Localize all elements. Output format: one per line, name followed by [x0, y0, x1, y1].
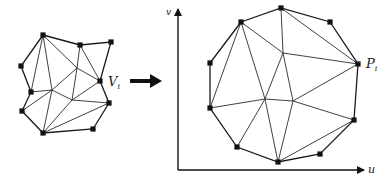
- mesh-edge: [265, 53, 283, 99]
- mesh-edge: [237, 99, 265, 147]
- boundary-vertex-marker: [278, 5, 283, 10]
- boundary-vertex-marker: [238, 19, 243, 24]
- mesh-edge: [283, 53, 293, 101]
- mapping-arrow-icon: [130, 74, 162, 88]
- original-3d-mesh: Vi: [18, 32, 120, 135]
- mesh-edge: [293, 101, 354, 120]
- mesh-edge: [281, 8, 358, 64]
- mesh-edge: [241, 22, 283, 53]
- mesh-edge: [265, 99, 278, 162]
- mesh-edge: [293, 64, 358, 101]
- mesh-edge: [52, 90, 72, 100]
- mesh-edge: [210, 22, 241, 108]
- boundary-vertex-marker: [40, 32, 45, 37]
- boundary-vertex-marker: [351, 117, 356, 122]
- mesh-edge: [72, 81, 100, 100]
- mesh-edge: [72, 100, 109, 103]
- mesh-edge: [43, 35, 52, 90]
- boundary-vertex-marker: [106, 100, 111, 105]
- mesh-edge: [278, 101, 293, 162]
- boundary-vertex-marker: [40, 130, 45, 135]
- boundary-vertex-marker: [355, 61, 360, 66]
- mesh-edge: [265, 99, 293, 101]
- mesh-parameterization-diagram: Vi u v Pi: [0, 0, 391, 180]
- mesh-edge: [241, 22, 265, 99]
- boundary-vertex-marker: [207, 60, 212, 65]
- v-axis-label: v: [166, 7, 171, 17]
- mesh-edge: [43, 100, 72, 133]
- boundary-vertex-marker: [97, 78, 102, 83]
- vertex-label-pi: Pi: [365, 56, 378, 73]
- uv-axes: u v: [166, 7, 375, 176]
- parameterized-2d-mesh: Pi: [207, 5, 377, 164]
- boundary-vertex-marker: [90, 126, 95, 131]
- right-mesh-boundary-vertices: [207, 5, 360, 164]
- left-mesh-boundary: [21, 35, 111, 133]
- mesh-edge: [72, 68, 77, 100]
- mesh-edge: [43, 90, 52, 133]
- vertex-label-vi: Vi: [108, 74, 120, 91]
- boundary-vertex-marker: [28, 89, 33, 94]
- mesh-edge: [210, 99, 265, 108]
- boundary-vertex-marker: [108, 39, 113, 44]
- mesh-edge: [278, 120, 354, 162]
- left-mesh-interior-edges: [22, 35, 109, 133]
- mesh-edge: [281, 8, 283, 53]
- mesh-edge: [52, 68, 77, 90]
- mesh-edge: [77, 45, 80, 68]
- boundary-vertex-marker: [327, 19, 332, 24]
- boundary-vertex-marker: [234, 144, 239, 149]
- boundary-vertex-marker: [207, 105, 212, 110]
- boundary-vertex-marker: [275, 159, 280, 164]
- u-axis-label: u: [368, 163, 375, 176]
- boundary-vertex-marker: [19, 108, 24, 113]
- mesh-edge: [283, 53, 358, 64]
- boundary-vertex-marker: [18, 63, 23, 68]
- boundary-vertex-marker: [317, 151, 322, 156]
- boundary-vertex-marker: [77, 42, 82, 47]
